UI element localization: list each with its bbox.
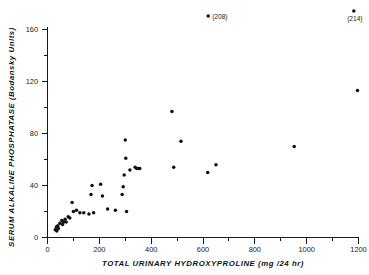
data-point	[179, 140, 183, 144]
data-point	[170, 110, 174, 114]
data-point	[92, 211, 96, 215]
data-point	[124, 156, 128, 160]
offscale-point-label: (214)	[347, 15, 362, 23]
data-point	[138, 167, 142, 171]
data-point	[64, 220, 68, 224]
x-tick-label-800: 800	[249, 245, 261, 254]
data-point	[75, 208, 79, 212]
x-axis-major-ticks	[48, 238, 359, 244]
x-axis-tick-labels: 0 200 400 600 800 1000 1200	[45, 245, 366, 254]
data-point	[90, 184, 94, 188]
y-tick-label-80: 80	[30, 129, 38, 138]
data-point	[121, 185, 125, 189]
data-point	[214, 163, 218, 167]
data-point	[89, 193, 93, 197]
data-point	[125, 210, 129, 214]
x-tick-label-600: 600	[197, 245, 209, 254]
y-axis-major-ticks	[42, 30, 48, 238]
x-tick-label-200: 200	[93, 245, 105, 254]
data-point	[120, 193, 124, 197]
data-point	[57, 227, 61, 231]
data-point	[72, 210, 76, 214]
offscale-point-label: (208)	[212, 13, 227, 21]
data-point	[78, 211, 82, 215]
y-tick-label-40: 40	[30, 181, 38, 190]
offscale-data-point	[206, 14, 210, 18]
data-point	[70, 201, 74, 205]
data-point	[292, 145, 296, 149]
scatter-plot-figure: 0 40 80 120 160 0 200	[0, 0, 369, 275]
data-point	[101, 194, 105, 198]
data-point	[114, 208, 118, 212]
data-point	[172, 166, 176, 170]
offscale-points-layer: (208)(214)	[206, 9, 362, 23]
y-axis-tick-labels: 0 40 80 120 160	[26, 25, 38, 242]
data-point	[106, 207, 110, 211]
y-tick-label-160: 160	[26, 25, 38, 34]
x-tick-label-1200: 1200	[350, 245, 366, 254]
x-tick-label-0: 0	[45, 245, 49, 254]
data-point	[87, 212, 91, 216]
offscale-data-point	[352, 9, 356, 13]
data-point	[206, 171, 210, 175]
x-axis-title: TOTAL URINARY HYDROXYPROLINE (mg /24 hr)	[102, 259, 304, 268]
data-point	[68, 216, 72, 220]
data-point	[82, 211, 86, 215]
plot-canvas: 0 40 80 120 160 0 200	[0, 0, 369, 275]
y-axis-title: SERUM ALKALINE PHOSPHATASE (Bodansky Uni…	[7, 27, 16, 247]
data-point	[99, 182, 103, 186]
data-point	[124, 138, 128, 142]
data-point	[128, 168, 132, 172]
y-tick-label-0: 0	[34, 233, 38, 242]
data-points-layer	[54, 89, 360, 233]
data-point	[356, 89, 360, 93]
x-tick-label-400: 400	[145, 245, 157, 254]
data-point	[122, 173, 126, 177]
y-tick-label-120: 120	[26, 77, 38, 86]
x-tick-label-1000: 1000	[298, 245, 314, 254]
